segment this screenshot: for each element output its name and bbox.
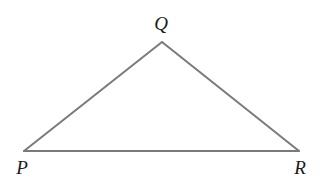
vertex-labels: PQR <box>15 13 306 178</box>
edge-qr <box>162 42 299 151</box>
vertex-label-p: P <box>15 157 28 178</box>
triangle-edges <box>24 42 299 151</box>
vertex-label-r: R <box>293 157 306 178</box>
triangle-diagram: PQR <box>0 0 325 179</box>
vertex-label-q: Q <box>154 13 168 34</box>
edge-pq <box>24 42 162 151</box>
